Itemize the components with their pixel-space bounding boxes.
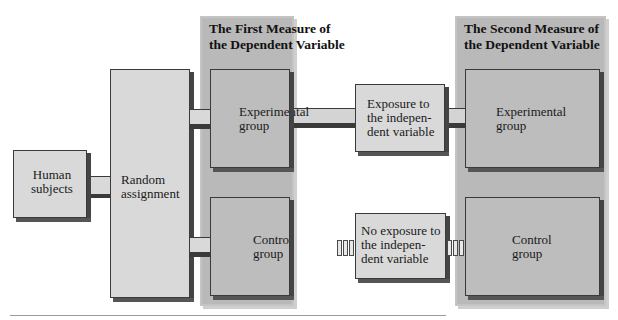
experimental-group-first: Experimental group xyxy=(210,69,290,168)
first-measure-title-line1: The First Measure of xyxy=(209,21,319,37)
connector-random-to-exp1-shadow xyxy=(190,125,210,129)
experimental-first-side-shade xyxy=(290,72,294,172)
control-second-line2: group xyxy=(512,247,552,261)
random-assignment-box: Random assignment xyxy=(110,69,190,298)
exposure-bottom-shade xyxy=(358,152,449,156)
no-exposure-line1: No exposure to xyxy=(361,224,440,238)
exposure-line2: the indepen- xyxy=(367,111,435,125)
control-second-bottom-shade xyxy=(468,296,604,300)
dash-segment xyxy=(343,240,348,256)
experimental-second-line2: group xyxy=(496,119,566,133)
dashed-connector-noexposure-to-ctrl2 xyxy=(447,240,464,256)
random-assignment-label: Random assignment xyxy=(121,173,187,201)
dash-segment xyxy=(453,240,458,256)
exposure-line3: dent variable xyxy=(367,125,435,139)
second-measure-title: The Second Measure of the Dependent Vari… xyxy=(464,21,600,53)
control-first-side-shade xyxy=(290,200,294,300)
connector-subjects-to-random-shadow xyxy=(88,194,112,198)
connector-random-to-ctrl1-shadow xyxy=(190,253,210,257)
experimental-second-side-shade xyxy=(600,72,604,172)
dash-segment xyxy=(447,240,452,256)
experimental-first-bottom-shade xyxy=(213,168,294,172)
exposure-label: Exposure to the indepen- dent variable xyxy=(367,97,435,139)
no-exposure-bottom-shade xyxy=(358,279,450,283)
first-measure-title-line2: the Dependent Variable xyxy=(209,37,319,53)
exposure-box: Exposure to the indepen- dent variable xyxy=(355,84,445,152)
dashed-connector-ctrl1-to-noexposure xyxy=(337,240,354,256)
experimental-group-second-label: Experimental group xyxy=(496,105,566,133)
no-exposure-label: No exposure to the indepen- dent variabl… xyxy=(361,224,440,266)
random-assignment-bottom-shade xyxy=(113,298,194,302)
human-subjects-side-shade xyxy=(87,153,91,221)
control-group-second: Control group xyxy=(465,197,600,296)
human-subjects-bottom-shade xyxy=(16,218,91,222)
exposure-line1: Exposure to xyxy=(367,97,435,111)
control-first-line2: group xyxy=(253,247,293,261)
human-subjects-label: Human subjects xyxy=(30,168,74,196)
control-first-line1: Control xyxy=(253,233,293,247)
human-subjects-box: Human subjects xyxy=(13,150,87,218)
random-assignment-side-shade xyxy=(190,72,194,302)
experimental-group-first-label: Experimental group xyxy=(239,105,309,133)
control-group-second-label: Control group xyxy=(512,233,552,261)
control-group-first: Control group xyxy=(210,197,290,296)
experimental-first-line1: Experimental xyxy=(239,105,309,119)
bottom-divider xyxy=(10,315,446,316)
control-group-first-label: Control group xyxy=(253,233,293,261)
second-measure-title-line2: the Dependent Variable xyxy=(464,37,600,53)
exposure-side-shade xyxy=(445,87,449,155)
experimental-second-line1: Experimental xyxy=(496,105,566,119)
control-second-line1: Control xyxy=(512,233,552,247)
experimental-group-second: Experimental group xyxy=(465,69,600,168)
connector-exposure-to-exp2-shadow xyxy=(449,124,465,128)
first-measure-title: The First Measure of the Dependent Varia… xyxy=(209,21,319,53)
no-exposure-box: No exposure to the indepen- dent variabl… xyxy=(355,213,446,279)
connector-random-to-ctrl1 xyxy=(190,237,212,253)
dash-segment xyxy=(459,240,464,256)
control-second-side-shade xyxy=(600,200,604,300)
no-exposure-line2: the indepen- xyxy=(361,238,440,252)
control-first-bottom-shade xyxy=(213,296,294,300)
experimental-first-line2: group xyxy=(239,119,309,133)
dash-segment xyxy=(349,240,354,256)
second-measure-title-line1: The Second Measure of xyxy=(464,21,600,37)
connector-random-to-exp1 xyxy=(190,109,212,125)
no-exposure-line3: dent variable xyxy=(361,252,440,266)
dash-segment xyxy=(337,240,342,256)
experimental-second-bottom-shade xyxy=(468,168,604,172)
